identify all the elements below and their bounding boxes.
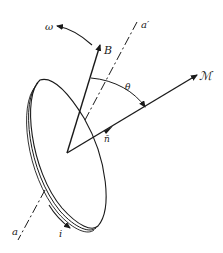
- omega-rotation-arrow: [57, 26, 92, 45]
- label-a-prime: a′: [141, 19, 150, 30]
- diagram-canvas: ω B a′ θ ℳ n̄ a i: [0, 0, 223, 253]
- axis-a-prime: [85, 22, 137, 120]
- label-omega: ω: [45, 21, 53, 32]
- magnetic-moment-vector: [67, 75, 197, 153]
- axis-a: [18, 190, 45, 240]
- label-a: a: [12, 226, 18, 237]
- current-arrow: [49, 205, 70, 228]
- diagram-svg: ω B a′ θ ℳ n̄ a i: [0, 0, 223, 253]
- label-normal-n: n̄: [104, 134, 110, 144]
- label-magnetic-moment: ℳ: [199, 69, 214, 83]
- label-theta: θ: [125, 82, 131, 92]
- label-i: i: [59, 228, 62, 239]
- label-b: B: [103, 44, 112, 57]
